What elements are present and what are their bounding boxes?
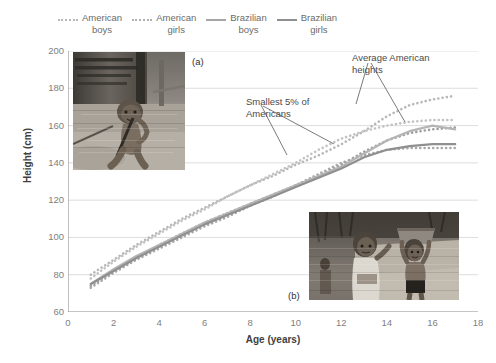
annotation-average-american-heights: Average American heights <box>352 52 448 75</box>
x-tick-label: 2 <box>104 317 124 328</box>
legend-label-american-boys: American boys <box>82 12 122 35</box>
x-tick-label: 16 <box>422 317 442 328</box>
legend-item-american-boys: American boys <box>58 12 122 35</box>
legend-label-american-girls: American girls <box>156 12 196 35</box>
y-tick-label: 180 <box>38 83 64 93</box>
y-tick-label: 120 <box>38 195 64 205</box>
x-tick-label: 12 <box>331 317 351 328</box>
y-tick-label: 160 <box>38 121 64 131</box>
chart-legend: American boys American girls Brazilian b… <box>58 12 398 42</box>
x-tick-label: 6 <box>195 317 215 328</box>
legend-swatch-dotted-icon <box>132 15 152 25</box>
legend-item-brazilian-boys: Brazilian boys <box>206 12 266 35</box>
photo-b-children-carrying-basin <box>309 212 459 300</box>
annotation-smallest-5-percent: Smallest 5% of Americans <box>246 96 336 119</box>
y-tick-label: 100 <box>38 232 64 242</box>
growth-chart-figure: American boys American girls Brazilian b… <box>0 0 496 363</box>
y-tick-label: 140 <box>38 158 64 168</box>
legend-swatch-solid-icon <box>277 15 297 25</box>
legend-item-brazilian-girls: Brazilian girls <box>277 12 337 35</box>
legend-label-brazilian-boys: Brazilian boys <box>230 12 266 35</box>
y-tick-label: 80 <box>38 270 64 280</box>
x-tick-label: 0 <box>58 317 78 328</box>
photo-a-child-at-stilt-house <box>73 52 185 170</box>
x-tick-label: 10 <box>286 317 306 328</box>
legend-swatch-solid-icon <box>206 15 226 25</box>
x-tick-label: 4 <box>149 317 169 328</box>
panel-tag-a: (a) <box>192 56 204 67</box>
y-axis-title: Height (cm) <box>22 101 33 211</box>
legend-item-american-girls: American girls <box>132 12 196 35</box>
x-tick-label: 14 <box>377 317 397 328</box>
x-tick-label: 8 <box>240 317 260 328</box>
y-tick-label: 200 <box>38 46 64 56</box>
x-axis-title: Age (years) <box>68 334 478 345</box>
x-tick-label: 18 <box>468 317 488 328</box>
x-axis-tick-labels: 024681012141618 <box>68 317 488 331</box>
legend-label-brazilian-girls: Brazilian girls <box>301 12 337 35</box>
panel-tag-b: (b) <box>288 290 300 301</box>
y-axis-tick-labels: 6080100120140160180200 <box>34 0 64 363</box>
y-tick-label: 60 <box>38 307 64 317</box>
